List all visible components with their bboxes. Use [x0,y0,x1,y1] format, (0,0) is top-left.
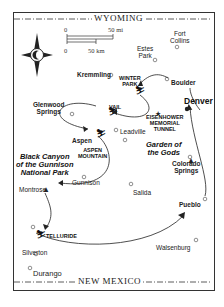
scale-miles-end: 50 mi [108,26,123,33]
town-leadville: Leadville [120,128,146,135]
scale-km-start: 0 [64,47,67,54]
landmark-black-canyon: Black Canyon of the Gunnison National Pa… [16,153,74,177]
town-colorado-springs: Colorado Springs [172,160,201,174]
svg-text:⛷: ⛷ [96,128,106,138]
border-label-wyoming: WYOMING [92,13,145,23]
ski-area-vail: VAIL [109,104,121,110]
landmark-garden-of-the-gods: Garden of the Gods [146,141,181,157]
town-kremmling: Kremmling [77,71,111,78]
town-gunnison: Gunnison [72,179,100,186]
compass-rose-icon [21,33,53,77]
town-denver: Denver [184,97,213,106]
town-estes-park: Estes Park [137,45,153,59]
town-glenwood-springs: Glenwood Springs [33,101,64,115]
scale-km-end: 50 km [88,47,104,54]
town-durango: Durango [33,270,62,277]
ski-area-winter-park: WINTER PARK [119,75,141,87]
town-salida: Salida [133,189,151,196]
ski-area-aspen-mountain: ASPEN MOUNTAIN [78,147,107,159]
town-fort-collins: Fort Collins [170,30,190,44]
landmark-eisenhower-tunnel: EISENHOWER MEMORIAL TUNNEL [146,114,184,132]
town-montrose: Montrose [19,186,46,193]
town-walsenburg: Walsenburg [156,244,190,251]
town-pueblo: Pueblo [179,201,201,208]
scale-bar [67,34,113,44]
scale-miles-start: 0 [64,26,67,33]
town-aspen: Aspen [72,137,92,144]
ski-area-telluride: TELLURIDE [46,233,77,239]
town-silverton: Silverton [22,249,47,256]
town-boulder: Boulder [171,79,196,86]
border-label-new-mexico: NEW MEXICO [76,276,143,286]
